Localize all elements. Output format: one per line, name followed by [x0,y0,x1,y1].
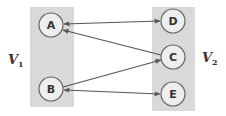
edge-b-c [63,60,161,87]
node-e-label: E [169,88,177,101]
node-d-label: D [168,15,177,28]
edge-a-d [64,21,160,24]
node-a: A [39,13,63,37]
node-c-label: C [169,51,177,64]
set-v2-label: V2 [202,50,218,67]
node-a-label: A [47,19,56,32]
edge-b-e [64,90,160,94]
bipartite-graph-diagram: V1 V2 A B D C E [0,0,226,116]
node-c: C [161,45,185,69]
node-b-label: B [47,83,55,96]
node-b: B [39,77,63,101]
node-d: D [161,9,185,33]
node-e: E [161,82,185,106]
set-v1-label: V1 [8,52,24,69]
edge-c-a [63,30,161,55]
